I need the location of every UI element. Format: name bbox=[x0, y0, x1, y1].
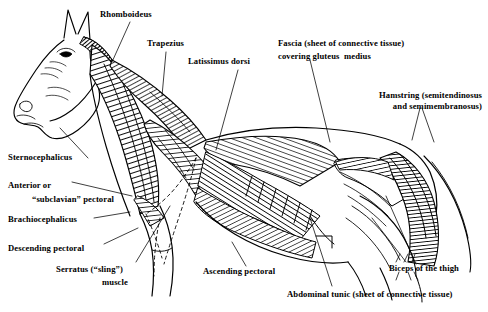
label-abdominal-tunic: Abdominal tunic (sheet of connective tis… bbox=[287, 289, 453, 300]
label-biceps-thigh: Biceps of the thigh bbox=[389, 263, 459, 274]
label-anterior-pectoral-line2: “subclavian” pectoral bbox=[32, 194, 114, 205]
label-rhomboideus: Rhomboideus bbox=[100, 9, 152, 20]
label-serratus-line2: muscle bbox=[102, 277, 128, 288]
label-hamstring-line2: and semimembranosus) bbox=[286, 101, 482, 112]
label-descending-pectoral: Descending pectoral bbox=[8, 243, 84, 254]
label-latissimus-dorsi: Latissimus dorsi bbox=[188, 56, 250, 67]
label-serratus-line1: Serratus (“sling”) bbox=[56, 264, 123, 275]
label-hamstring-line1: Hamstring (semitendinosus bbox=[286, 90, 482, 101]
label-trapezius: Trapezius bbox=[147, 38, 184, 49]
anatomy-figure: Rhomboideus Trapezius Latissimus dorsi F… bbox=[0, 0, 488, 312]
label-fascia-gluteus-line1: Fascia (sheet of connective tissue) bbox=[278, 38, 404, 49]
label-anterior-pectoral-line1: Anterior or bbox=[8, 180, 51, 191]
label-fascia-gluteus-line2: covering gluteus medius bbox=[278, 51, 371, 62]
label-sternocephalicus: Sternocephalicus bbox=[8, 152, 72, 163]
label-ascending-pectoral: Ascending pectoral bbox=[203, 266, 275, 277]
label-brachiocephalicus: Brachiocephalicus bbox=[8, 214, 77, 225]
